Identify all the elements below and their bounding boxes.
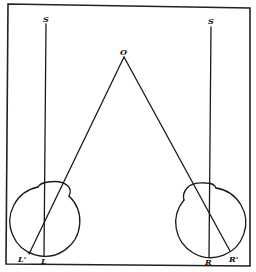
right-eye [176,183,246,258]
right-s-line [209,27,211,257]
left-eye-cornea [38,182,70,197]
label-right-s: S [208,16,214,26]
right-eye-cornea [183,183,216,200]
optics-diagram: S S O L' L R R' [0,0,256,272]
label-l-prime: L' [17,254,26,264]
line-o-to-l-prime [29,57,124,254]
label-o: O [120,47,127,57]
label-r: R [204,257,212,267]
right-eye-globe [176,188,246,258]
label-r-prime: R' [228,254,238,264]
label-left-s: S [43,14,49,24]
line-o-to-r-prime [124,57,230,251]
label-l: L [40,256,47,266]
